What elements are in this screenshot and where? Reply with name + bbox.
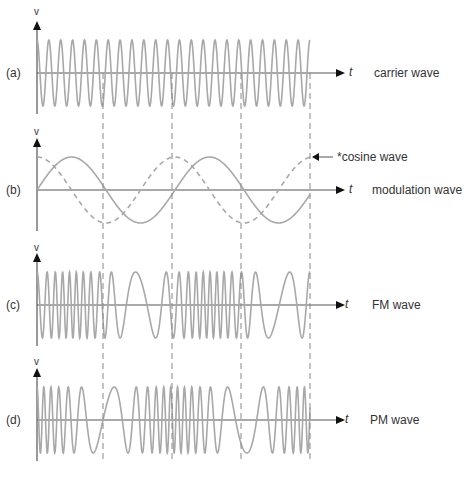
panel-c-v-label: v (34, 242, 39, 253)
panel-b-t-arrow-icon (336, 186, 345, 194)
panel-a-title: carrier wave (374, 66, 439, 80)
panel-c-t-label: t (345, 297, 348, 311)
panel-d-title: PM wave (370, 413, 419, 427)
annotation-arrow-icon (312, 153, 319, 161)
panel-c-t-arrow-icon (336, 301, 345, 309)
panel-d-tag: (d) (6, 413, 21, 427)
panel-d-t-label: t (345, 412, 348, 426)
panel-b-tag: (b) (6, 183, 21, 197)
panel-a-tag: (a) (6, 66, 21, 80)
panel-a-t-arrow-icon (336, 69, 345, 77)
panel-b-v-arrow-icon (33, 138, 41, 147)
panel-a-v-label: v (34, 6, 39, 17)
panel-d-v-arrow-icon (33, 368, 41, 377)
panel-b-title: modulation wave (372, 183, 462, 197)
panel-d-t-arrow-icon (336, 416, 345, 424)
panel-c-v-arrow-icon (33, 253, 41, 262)
panel-b-t-label: t (349, 182, 352, 196)
panel-b-v-label: v (34, 126, 39, 137)
panel-d-v-label: v (34, 356, 39, 367)
panel-a-v-arrow-icon (33, 21, 41, 30)
panel-a-t-label: t (349, 65, 352, 79)
cosine-wave-annotation: *cosine wave (337, 150, 408, 164)
panel-c-title: FM wave (372, 298, 421, 312)
panel-c-tag: (c) (6, 298, 20, 312)
